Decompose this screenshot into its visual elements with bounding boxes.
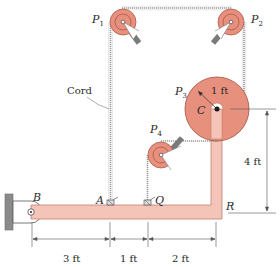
pulley-p1 [110,9,139,43]
attachment-q-icon [144,197,155,205]
label-q: Q [155,194,164,207]
dim-label-2ft: 2 ft [172,253,189,264]
label-a: A [95,194,104,207]
label-p1: P1 [91,13,104,28]
pulley-p4 [148,138,182,170]
label-p3: P3 [174,85,187,100]
label-c: C [197,104,206,117]
cord-leader-line [87,97,109,109]
horizontal-dimensions [32,222,216,247]
label-p2: P2 [250,13,263,28]
pulley-p2 [213,9,244,43]
pin-b-icon [28,209,34,215]
dim-label-3ft: 3 ft [63,253,80,264]
dim-label-4ft: 4 ft [244,156,261,167]
dim-label-1ft: 1 ft [120,253,137,264]
label-radius: 1 ft [211,85,228,96]
label-r: R [225,200,234,213]
label-b: B [32,191,41,204]
label-cord: Cord [67,85,92,96]
pulley-system-diagram: P1 P2 P3 P4 C 1 ft Cord A B Q R 3 ft 1 f… [0,0,280,267]
label-p4: P4 [149,123,162,138]
